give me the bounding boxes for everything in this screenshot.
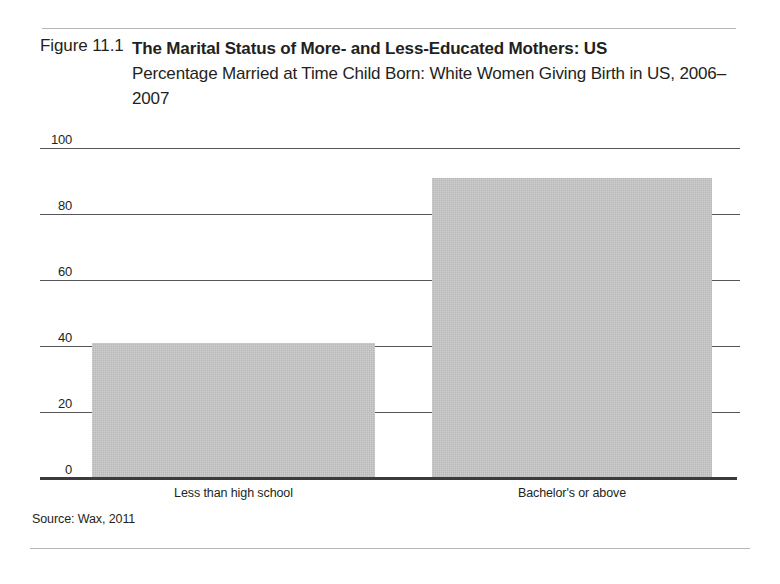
y-tick-label-20: 20	[38, 396, 72, 411]
y-tick-label-60: 60	[38, 264, 72, 279]
gridline-100	[40, 148, 740, 149]
y-tick-label-40: 40	[38, 330, 72, 345]
category-label: Less than high school	[92, 486, 375, 500]
plot-area: 020406080100 Less than high schoolBachel…	[0, 0, 780, 584]
bar	[432, 178, 712, 478]
y-tick-label-0: 0	[38, 462, 72, 477]
x-axis-line	[40, 477, 737, 480]
y-tick-label-80: 80	[38, 198, 72, 213]
y-tick-label-100: 100	[38, 132, 72, 147]
category-label: Bachelor's or above	[432, 486, 712, 500]
figure-container: Figure 11.1 The Marital Status of More- …	[0, 0, 780, 584]
source-note: Source: Wax, 2011	[32, 512, 135, 526]
bottom-divider	[30, 548, 750, 549]
bar	[92, 343, 375, 478]
